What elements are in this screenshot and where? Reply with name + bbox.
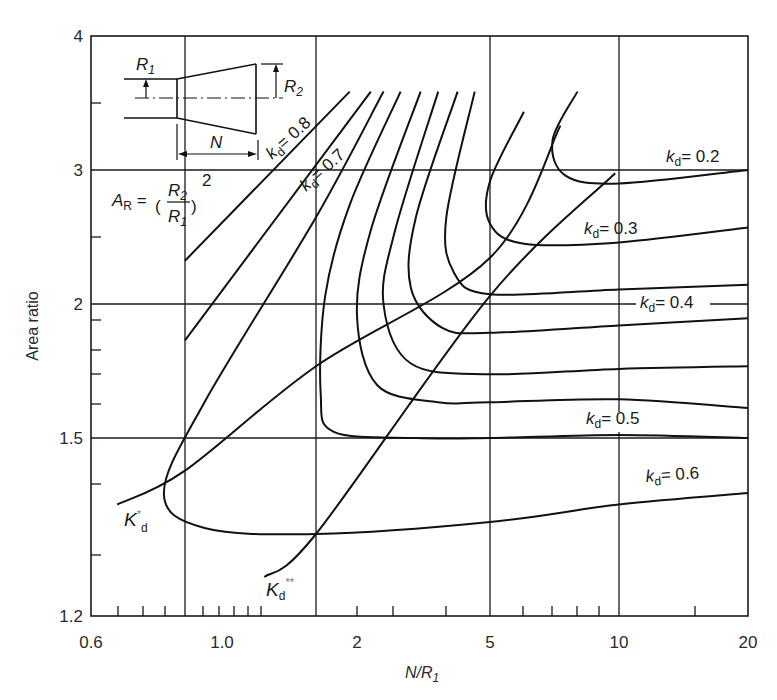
x-tick-label: 5 bbox=[485, 633, 494, 652]
x-tick-label: 1.0 bbox=[210, 633, 234, 652]
r2-label: R2 bbox=[284, 77, 303, 99]
kd-0.2-label: kd= 0.2 bbox=[662, 146, 734, 169]
axis-ticks bbox=[91, 103, 695, 616]
svg-text:): ) bbox=[191, 197, 197, 216]
svg-text:AR =: AR = bbox=[111, 191, 147, 213]
y-axis-title: Area ratio bbox=[24, 291, 41, 360]
area-ratio-chart: 0.61.0251020 1.21.5234 R1 R2 N AR = ( R2… bbox=[0, 0, 777, 700]
y-tick-label: 3 bbox=[74, 161, 83, 180]
k-d-double-star-label: Kd** bbox=[266, 576, 295, 603]
curve-K-d bbox=[117, 126, 560, 505]
svg-text:(: ( bbox=[155, 197, 161, 216]
y-tick-label: 1.2 bbox=[59, 607, 83, 626]
curve-kd-0.7 bbox=[185, 92, 371, 341]
svg-text:kd= 0.5: kd= 0.5 bbox=[586, 409, 639, 431]
x-tick-labels: 0.61.0251020 bbox=[79, 633, 757, 652]
r1-label: R1 bbox=[136, 55, 155, 77]
kd-0.4-label: kd= 0.4 bbox=[636, 292, 710, 315]
y-tick-label: 1.5 bbox=[59, 429, 83, 448]
area-ratio-formula: AR = ( R2 R1 ) 2 bbox=[111, 171, 211, 229]
n-label: N bbox=[210, 133, 223, 152]
k-star-d-label: K*d bbox=[124, 508, 148, 535]
kd-0.5-label: kd= 0.5 bbox=[584, 409, 654, 432]
y-tick-labels: 1.21.5234 bbox=[59, 27, 83, 626]
curve-kd-0.5-lower- bbox=[320, 92, 748, 439]
y-tick-label: 4 bbox=[74, 27, 83, 46]
x-tick-label: 2 bbox=[352, 633, 361, 652]
kd-0.6-label: kd= 0.6 bbox=[645, 463, 700, 489]
kd-curves bbox=[117, 92, 748, 577]
x-tick-label: 20 bbox=[739, 633, 758, 652]
x-axis-title: N/R1 bbox=[405, 664, 439, 685]
svg-text:kd= 0.4: kd= 0.4 bbox=[640, 293, 693, 315]
curve-kd-0.45 bbox=[383, 92, 748, 375]
x-tick-label: 0.6 bbox=[79, 633, 103, 652]
x-tick-label: 10 bbox=[610, 633, 629, 652]
diffuser-inset-sketch bbox=[124, 64, 283, 160]
kd-0.3-label: kd= 0.3 bbox=[584, 219, 637, 241]
curve-Kd- bbox=[264, 173, 615, 577]
svg-text:R1: R1 bbox=[168, 207, 187, 229]
y-tick-label: 2 bbox=[74, 295, 83, 314]
kd-0.8-label: kd= 0.8 bbox=[262, 113, 316, 165]
svg-text:2: 2 bbox=[202, 171, 211, 190]
svg-text:kd= 0.2: kd= 0.2 bbox=[666, 147, 719, 169]
